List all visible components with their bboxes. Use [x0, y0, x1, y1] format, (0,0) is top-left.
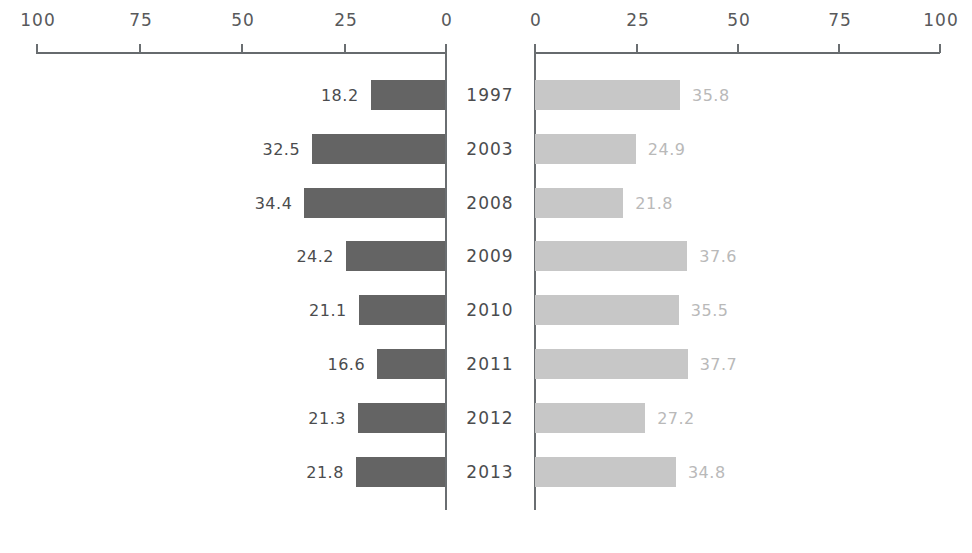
- value-label-right-2003: 24.9: [648, 139, 686, 158]
- right-axis-tick-100: [939, 44, 941, 53]
- bar-right-2009: [535, 241, 687, 271]
- value-label-right-2011: 37.7: [700, 355, 738, 374]
- bar-left-2013: [356, 457, 445, 487]
- bar-right-2011: [535, 349, 688, 379]
- left-axis-tick-label-75: 75: [129, 10, 153, 30]
- value-label-left-2008: 34.4: [255, 193, 293, 212]
- left-axis-tick-label-100: 100: [20, 10, 55, 30]
- right-axis-tick-label-75: 75: [828, 10, 852, 30]
- right-axis-tick-50: [737, 44, 739, 53]
- bar-right-2003: [535, 134, 636, 164]
- right-panel-baseline: [534, 52, 536, 510]
- right-axis-tick-75: [838, 44, 840, 53]
- value-label-left-2009: 24.2: [296, 247, 334, 266]
- value-label-left-2012: 21.3: [308, 408, 346, 427]
- bar-left-1997: [371, 80, 445, 110]
- left-axis-tick-25: [344, 44, 346, 53]
- left-axis-tick-50: [241, 44, 243, 53]
- category-label-2003: 2003: [466, 139, 513, 159]
- value-label-left-1997: 18.2: [321, 86, 359, 105]
- left-axis-tick-75: [139, 44, 141, 53]
- bar-left-2009: [346, 241, 445, 271]
- value-label-right-1997: 35.8: [692, 86, 730, 105]
- left-axis-tick-label-0: 0: [441, 10, 453, 30]
- bar-left-2003: [312, 134, 445, 164]
- bar-right-2012: [535, 403, 645, 433]
- value-label-right-2008: 21.8: [635, 193, 673, 212]
- bar-right-2008: [535, 188, 623, 218]
- category-label-2009: 2009: [466, 246, 513, 266]
- left-panel-baseline: [445, 52, 447, 510]
- category-label-2011: 2011: [466, 354, 513, 374]
- bar-left-2012: [358, 403, 445, 433]
- right-axis-tick-25: [636, 44, 638, 53]
- tornado-chart: 100 75 50 25 0 0 25 50 75 100 18.235.819…: [0, 0, 972, 553]
- bar-right-2013: [535, 457, 676, 487]
- value-label-left-2011: 16.6: [327, 355, 365, 374]
- bar-right-2010: [535, 295, 679, 325]
- value-label-right-2010: 35.5: [691, 301, 729, 320]
- right-axis-tick-label-100: 100: [923, 10, 958, 30]
- bar-left-2011: [377, 349, 445, 379]
- value-label-left-2003: 32.5: [262, 139, 300, 158]
- category-label-2012: 2012: [466, 408, 513, 428]
- bar-right-1997: [535, 80, 680, 110]
- bar-left-2010: [359, 295, 445, 325]
- value-label-left-2010: 21.1: [309, 301, 347, 320]
- category-label-1997: 1997: [466, 85, 513, 105]
- value-label-right-2012: 27.2: [657, 408, 695, 427]
- right-axis-tick-label-50: 50: [727, 10, 751, 30]
- category-label-2010: 2010: [466, 300, 513, 320]
- value-label-left-2013: 21.8: [306, 462, 344, 481]
- left-axis-tick-label-50: 50: [231, 10, 255, 30]
- value-label-right-2013: 34.8: [688, 462, 726, 481]
- right-axis-tick-label-0: 0: [530, 10, 542, 30]
- category-label-2013: 2013: [466, 462, 513, 482]
- bar-left-2008: [304, 188, 445, 218]
- right-axis-tick-label-25: 25: [626, 10, 650, 30]
- value-label-right-2009: 37.6: [699, 247, 737, 266]
- left-axis-tick-100: [36, 44, 38, 53]
- category-label-2008: 2008: [466, 193, 513, 213]
- left-axis-tick-label-25: 25: [334, 10, 358, 30]
